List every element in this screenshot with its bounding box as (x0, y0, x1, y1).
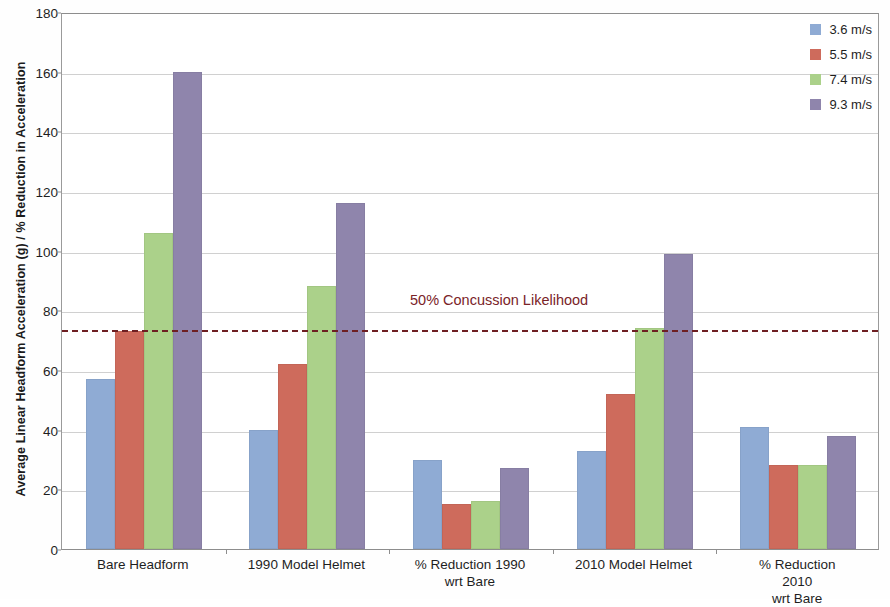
bar[interactable] (769, 465, 798, 549)
bar[interactable] (86, 379, 115, 549)
y-axis-tick-mark (56, 251, 61, 252)
bars-layer (62, 14, 878, 549)
y-axis-tick-mark (56, 430, 61, 431)
legend-item[interactable]: 3.6 m/s (810, 22, 872, 37)
bar[interactable] (500, 468, 529, 549)
x-axis-tick-mark (716, 549, 717, 554)
y-axis-tick-mark (56, 550, 61, 551)
x-axis-label: % Reduction 2010 wrt Bare (756, 556, 838, 607)
y-axis-tick-mark (56, 311, 61, 312)
y-axis-tick-label: 140 (12, 125, 58, 140)
bar[interactable] (307, 286, 336, 549)
y-axis-tick-mark (56, 132, 61, 133)
bar[interactable] (635, 328, 664, 549)
legend-label: 3.6 m/s (829, 22, 872, 37)
plot-area: 50% Concussion Likelihood (61, 13, 879, 550)
bar[interactable] (471, 501, 500, 549)
bar[interactable] (740, 427, 769, 549)
legend-item[interactable]: 9.3 m/s (810, 97, 872, 112)
y-axis-tick-label: 20 (12, 483, 58, 498)
bar-group (553, 14, 717, 549)
bar[interactable] (278, 364, 307, 549)
y-axis-tick-label: 180 (12, 6, 58, 21)
x-axis-tick-mark (553, 549, 554, 554)
y-axis-tick-label: 40 (12, 423, 58, 438)
bar[interactable] (798, 465, 827, 549)
legend-label: 5.5 m/s (829, 47, 872, 62)
legend-swatch-icon (810, 74, 821, 85)
y-axis-tick-label: 0 (12, 543, 58, 558)
bar[interactable] (144, 233, 173, 549)
bar[interactable] (413, 460, 442, 550)
x-axis-label: Bare Headform (97, 556, 189, 573)
legend-label: 7.4 m/s (829, 72, 872, 87)
x-axis-labels: Bare Headform1990 Model Helmet% Reductio… (61, 556, 879, 599)
legend-swatch-icon (810, 49, 821, 60)
x-axis-label: 2010 Model Helmet (575, 556, 692, 573)
legend-label: 9.3 m/s (829, 97, 872, 112)
y-axis-tick-label: 60 (12, 364, 58, 379)
bar[interactable] (173, 72, 202, 549)
bar-group (62, 14, 226, 549)
y-axis-tick-mark (56, 371, 61, 372)
bar[interactable] (249, 430, 278, 549)
bar[interactable] (664, 254, 693, 549)
bar[interactable] (442, 504, 471, 549)
y-axis-tick-label: 160 (12, 65, 58, 80)
concussion-threshold-line (62, 330, 878, 332)
y-axis-tick-mark (56, 490, 61, 491)
bar[interactable] (115, 331, 144, 549)
x-axis-tick-mark (226, 549, 227, 554)
legend-item[interactable]: 5.5 m/s (810, 47, 872, 62)
y-axis-tick-mark (56, 192, 61, 193)
x-axis-label: % Reduction 1990 wrt Bare (415, 556, 525, 590)
y-axis-tick-mark (56, 13, 61, 14)
y-axis-tick-label: 80 (12, 304, 58, 319)
y-axis-tick-mark (56, 72, 61, 73)
x-axis-label: 1990 Model Helmet (248, 556, 365, 573)
x-axis-tick-mark (389, 549, 390, 554)
bar[interactable] (827, 436, 856, 549)
y-axis-title: Average Linear Headform Acceleration (g)… (14, 0, 28, 559)
bar-group (226, 14, 390, 549)
bar-group (389, 14, 553, 549)
legend-item[interactable]: 7.4 m/s (810, 72, 872, 87)
legend: 3.6 m/s5.5 m/s7.4 m/s9.3 m/s (810, 22, 872, 112)
concussion-threshold-label: 50% Concussion Likelihood (410, 292, 588, 308)
bar[interactable] (606, 394, 635, 549)
bar[interactable] (577, 451, 606, 549)
y-axis-tick-label: 100 (12, 244, 58, 259)
legend-swatch-icon (810, 24, 821, 35)
bar[interactable] (336, 203, 365, 549)
y-axis-tick-label: 120 (12, 185, 58, 200)
legend-swatch-icon (810, 99, 821, 110)
